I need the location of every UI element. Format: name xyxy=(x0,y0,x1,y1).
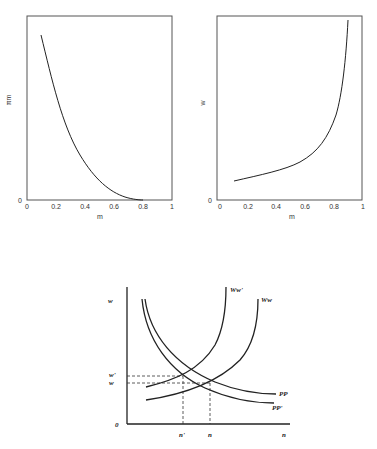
plot-frame-right xyxy=(217,16,362,200)
label-pp: PP xyxy=(279,390,288,398)
x-tick-left-4: 0.8 xyxy=(138,203,148,210)
origin-label: 0 xyxy=(115,421,119,429)
x-axis-label-bottom: n xyxy=(282,431,286,439)
y-axis-label-right: w xyxy=(199,100,206,107)
pi-m-curve xyxy=(41,35,143,200)
y-axis-label-bottom: w xyxy=(108,297,113,305)
pp-curve xyxy=(145,299,276,394)
y-zero-tick-right: 0 xyxy=(208,197,212,204)
w-curve xyxy=(234,20,348,181)
x-tick-right-2: 0.4 xyxy=(271,203,281,210)
x-tick-right-4: 0.8 xyxy=(329,203,339,210)
label-pp-prime: PP' xyxy=(272,404,283,412)
chart-right: 0 0 0.2 0.4 0.6 0.8 1 m w xyxy=(199,16,365,220)
chart-left: 0 0 0.2 0.4 0.6 0.8 1 m πm xyxy=(5,16,174,220)
x-tick-right-1: 0.2 xyxy=(243,203,253,210)
x-tick-left-5: 1 xyxy=(170,203,174,210)
label-ww-prime: Ww' xyxy=(230,286,243,294)
x-tick-right-0: 0 xyxy=(218,203,222,210)
label-ww: Ww xyxy=(261,296,272,304)
pp-prime-curve xyxy=(142,299,274,403)
plot-frame-left xyxy=(27,16,172,200)
x-tick-n-prime: n' xyxy=(179,431,185,439)
x-tick-left-1: 0.2 xyxy=(51,203,61,210)
x-tick-left-0: 0 xyxy=(25,203,29,210)
x-tick-left-2: 0.4 xyxy=(80,203,90,210)
y-axis-label-left: πm xyxy=(5,95,12,106)
x-tick-left-3: 0.6 xyxy=(109,203,119,210)
x-tick-n: n xyxy=(208,431,212,439)
chart-bottom: w w' w 0 n' n n Ww' Ww PP PP' xyxy=(108,286,290,439)
x-tick-right-3: 0.6 xyxy=(300,203,310,210)
y-tick-w: w xyxy=(109,379,114,387)
ww-curve xyxy=(146,299,258,400)
x-axis-label-right: m xyxy=(289,213,295,220)
y-tick-w-prime: w' xyxy=(109,371,116,379)
figure-canvas: 0 0 0.2 0.4 0.6 0.8 1 m πm 0 0 0.2 0.4 0… xyxy=(0,0,377,449)
x-tick-right-5: 1 xyxy=(361,203,365,210)
x-axis-label-left: m xyxy=(97,213,103,220)
ww-prime-curve xyxy=(146,287,226,387)
y-zero-tick-left: 0 xyxy=(18,197,22,204)
